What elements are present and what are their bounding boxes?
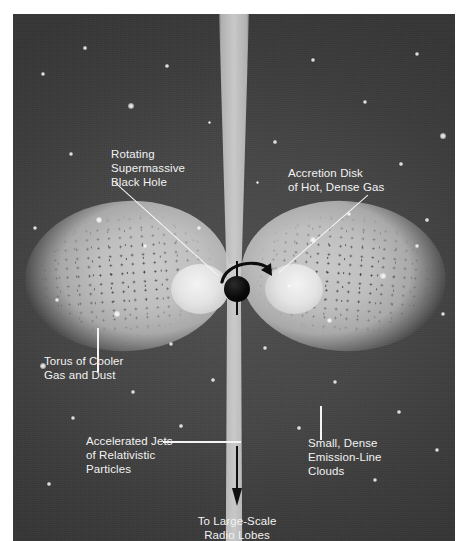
emission-line-cloud	[440, 133, 445, 138]
label-torus: Torus of Cooler Gas and Dust	[44, 354, 123, 382]
emission-line-cloud	[179, 424, 182, 427]
emission-line-cloud	[399, 162, 402, 165]
emission-line-cloud	[327, 318, 332, 323]
emission-line-cloud	[33, 226, 38, 231]
emission-line-cloud	[71, 416, 76, 421]
emission-line-cloud	[373, 478, 377, 482]
emission-line-cloud	[425, 218, 428, 221]
emission-line-cloud	[208, 121, 211, 124]
label-radio-lobes: To Large-Scale Radio Lobes	[182, 514, 292, 541]
emission-line-cloud	[311, 58, 316, 63]
emission-line-cloud	[96, 217, 102, 223]
emission-line-cloud	[211, 378, 214, 381]
label-jets: Accelerated Jets of Relativistic Particl…	[86, 434, 173, 476]
emission-line-cloud	[114, 311, 120, 317]
label-accretion-disk: Accretion Disk of Hot, Dense Gas	[288, 166, 384, 194]
leader-line-jets	[163, 441, 241, 443]
emission-line-cloud	[47, 482, 50, 485]
emission-line-cloud	[69, 152, 73, 156]
emission-line-cloud	[287, 284, 290, 287]
emission-line-cloud	[435, 448, 439, 452]
emission-line-cloud	[128, 103, 134, 109]
emission-line-cloud	[197, 226, 201, 230]
emission-line-cloud	[441, 312, 445, 316]
emission-line-cloud	[273, 140, 276, 143]
emission-line-cloud	[83, 46, 86, 49]
label-clouds: Small, Dense Emission-Line Clouds	[308, 436, 382, 478]
leader-line-clouds	[320, 406, 322, 440]
emission-line-cloud	[333, 380, 338, 385]
emission-line-cloud	[169, 342, 173, 346]
emission-line-cloud	[380, 273, 386, 279]
emission-line-cloud	[263, 346, 267, 350]
label-black-hole: Rotating Supermassive Black Hole	[111, 147, 185, 189]
emission-line-cloud	[415, 52, 419, 56]
emission-line-cloud	[363, 100, 367, 104]
emission-line-cloud	[165, 64, 169, 68]
emission-line-cloud	[41, 72, 45, 76]
rotation-direction-arrow	[216, 254, 278, 288]
emission-line-cloud	[297, 426, 300, 429]
emission-line-cloud	[397, 410, 401, 414]
emission-line-cloud	[256, 181, 259, 184]
emission-line-cloud	[131, 390, 135, 394]
sky-background: Rotating Supermassive Black Hole Accreti…	[13, 14, 455, 541]
jet-direction-arrow	[231, 446, 243, 508]
agn-diagram: Rotating Supermassive Black Hole Accreti…	[0, 0, 476, 541]
emission-line-cloud	[55, 298, 59, 302]
